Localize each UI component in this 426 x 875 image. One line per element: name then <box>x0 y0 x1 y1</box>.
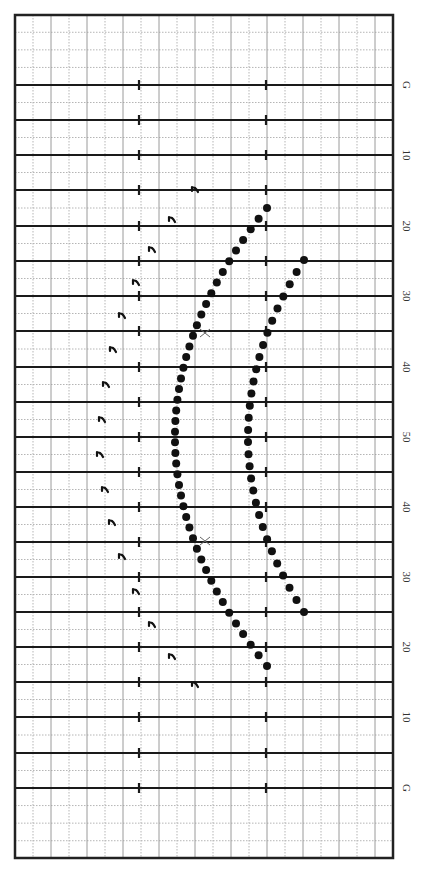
player-r-marker <box>110 347 116 352</box>
yard-label: 10 <box>401 705 413 729</box>
player-dot <box>175 481 183 489</box>
player-dot <box>250 377 258 385</box>
player-r-marker <box>133 280 139 285</box>
yard-label: 20 <box>401 635 413 659</box>
player-dot <box>225 609 233 617</box>
player-dot <box>300 256 308 264</box>
player-dot <box>268 317 276 325</box>
yard-label: 30 <box>401 284 413 308</box>
player-dot <box>255 651 263 659</box>
player-dot <box>273 559 281 567</box>
player-dot <box>197 556 205 564</box>
player-dot <box>219 598 227 606</box>
player-dot <box>207 577 215 585</box>
yard-label: 40 <box>401 495 413 519</box>
player-dot <box>249 487 257 495</box>
player-dot <box>179 502 187 510</box>
player-dot <box>247 641 255 649</box>
player-dot <box>263 329 271 337</box>
player-dot <box>182 513 190 521</box>
player-r-marker <box>169 654 175 659</box>
player-dot <box>293 268 301 276</box>
player-dot <box>232 247 240 255</box>
player-dot <box>207 289 215 297</box>
player-dot <box>293 596 301 604</box>
player-dot <box>259 341 267 349</box>
player-r-marker <box>169 217 175 222</box>
player-dot <box>245 450 253 458</box>
yard-label: 10 <box>401 143 413 167</box>
player-dot <box>185 524 193 532</box>
player-dot <box>263 662 271 670</box>
player-dot <box>179 364 187 372</box>
player-dot <box>286 280 294 288</box>
player-dot <box>247 225 255 233</box>
player-dot <box>193 545 201 553</box>
player-dot <box>189 534 197 542</box>
player-r-marker <box>119 554 125 559</box>
player-dot <box>202 566 210 574</box>
player-r-marker <box>149 247 155 252</box>
player-dot <box>175 385 183 393</box>
player-dot <box>185 343 193 351</box>
player-dot <box>239 236 247 244</box>
player-dot <box>177 492 185 500</box>
yard-label: 50 <box>401 425 413 449</box>
player-dot <box>300 608 308 616</box>
player-dot <box>171 417 179 425</box>
player-dot <box>172 460 180 468</box>
player-dot <box>263 535 271 543</box>
yard-label: 40 <box>401 355 413 379</box>
player-dot <box>279 572 287 580</box>
player-dot <box>173 470 181 478</box>
player-dot <box>255 353 263 361</box>
player-dot <box>246 462 254 470</box>
player-dot <box>213 279 221 287</box>
player-dot <box>244 438 252 446</box>
player-dot <box>274 305 282 313</box>
player-dot <box>219 268 227 276</box>
player-dot <box>197 311 205 319</box>
player-dot <box>245 414 253 422</box>
player-dot <box>189 332 197 340</box>
player-dot <box>193 321 201 329</box>
player-dot <box>263 204 271 212</box>
player-dot <box>177 374 185 382</box>
player-dot <box>286 584 294 592</box>
player-dot <box>213 587 221 595</box>
player-dot <box>232 619 240 627</box>
player-dot <box>279 292 287 300</box>
yard-label: G <box>401 776 413 800</box>
player-dot <box>225 257 233 265</box>
player-dot <box>268 547 276 555</box>
player-dot <box>247 390 255 398</box>
football-field-diagram <box>0 0 426 875</box>
player-dot <box>171 449 179 457</box>
player-r-marker <box>133 589 139 594</box>
player-dot <box>172 406 180 414</box>
player-dot <box>171 438 179 446</box>
player-dot <box>239 630 247 638</box>
player-dot <box>244 426 252 434</box>
player-dot <box>252 365 260 373</box>
yard-lines <box>15 85 393 788</box>
player-r-marker <box>149 622 155 627</box>
player-dot <box>246 402 254 410</box>
player-dot <box>171 428 179 436</box>
player-dot <box>173 396 181 404</box>
yard-label: 30 <box>401 565 413 589</box>
player-dot <box>182 353 190 361</box>
player-dot <box>259 523 267 531</box>
player-dot <box>252 499 260 507</box>
yard-label: G <box>401 73 413 97</box>
player-dot <box>247 475 255 483</box>
player-dot <box>255 215 263 223</box>
player-dot <box>202 300 210 308</box>
yard-label: 20 <box>401 214 413 238</box>
player-dot <box>255 511 263 519</box>
